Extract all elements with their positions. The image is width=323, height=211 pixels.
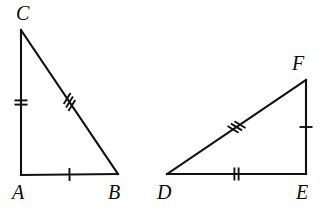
vertex-label-d: D [157,182,171,202]
vertex-label-a: A [12,182,24,202]
vertex-label-f: F [292,53,304,73]
vertex-label-e: E [296,182,308,202]
vertex-label-c: C [16,3,29,23]
vertex-label-b: B [108,182,120,202]
geometry-figure-canvas: A B C D E F [0,0,323,211]
triangle-def [167,80,313,181]
triangle-abc [15,30,119,181]
triangles-svg [0,0,323,211]
